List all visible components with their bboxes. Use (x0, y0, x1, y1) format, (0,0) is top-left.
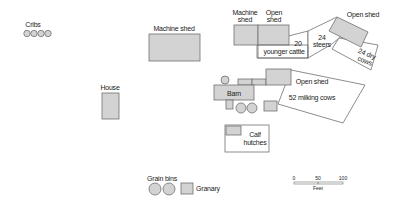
barn-small-structure (226, 100, 233, 109)
cribs-label: Cribs (25, 21, 41, 28)
open-shed-top-label-2: shed (267, 16, 282, 23)
scale-tick-100: 100 (339, 175, 348, 181)
barn-label: Barn (227, 90, 241, 97)
barn-silo-1 (236, 103, 246, 113)
crib-4 (45, 30, 51, 36)
machine-shed-main-label: Machine shed (153, 25, 194, 32)
machine-shed-small-label-1: Machine (232, 9, 257, 16)
open-shed-top-building (258, 25, 289, 45)
calf-hutches-label-1: Calf (249, 131, 261, 138)
house: House (100, 84, 120, 119)
grain-bin-1 (149, 183, 161, 195)
granary-label: Granary (196, 185, 221, 193)
farmstead-diagram: Cribs Machine shed House Machine shed Op… (0, 0, 402, 206)
open-shed-angled-label: Open shed (347, 11, 380, 19)
younger-cattle-label-1: 20 (294, 40, 302, 47)
calf-hutches: Calf hutches (225, 125, 269, 152)
barn-annex-2 (252, 79, 266, 85)
scale-unit: Feet (313, 185, 324, 191)
crib-3 (38, 30, 44, 36)
barn-side-structure (264, 101, 277, 111)
barn-cluster: Barn (214, 69, 291, 113)
open-shed-barn-building (266, 69, 291, 85)
barn-silo-2 (247, 103, 257, 113)
calf-hutches-label-2: hutches (243, 139, 267, 146)
scale-bar-rect (294, 182, 343, 184)
grain-bins: Grain bins (147, 175, 178, 195)
machine-shed-main: Machine shed (149, 25, 200, 61)
machine-shed-small: Machine shed (232, 9, 258, 45)
machine-shed-small-building (234, 25, 258, 45)
scale-bar: 0 50 100 Feet (293, 175, 348, 191)
open-shed-top: Open shed (258, 9, 289, 45)
open-shed-barn-label: Open shed (296, 78, 329, 86)
scale-tick-0: 0 (293, 175, 296, 181)
younger-cattle-label-2: younger cattle (263, 48, 304, 56)
barn-annex-1 (238, 79, 252, 85)
calf-hutches-building (226, 126, 241, 135)
silo-top (221, 76, 229, 84)
steers-label-2: steers (313, 41, 332, 48)
granary: Granary (181, 183, 221, 194)
milking-cows-label: 52 milking cows (289, 94, 336, 102)
house-building (102, 93, 119, 119)
grain-bin-2 (163, 183, 175, 195)
steers-label-1: 24 (318, 34, 326, 41)
machine-shed-small-label-2: shed (238, 16, 253, 23)
cribs: Cribs (24, 21, 51, 37)
grain-bins-label: Grain bins (147, 175, 178, 182)
crib-2 (31, 30, 37, 36)
house-label: House (100, 84, 120, 91)
scale-tick-50: 50 (315, 175, 321, 181)
crib-1 (24, 30, 30, 36)
granary-building (181, 183, 193, 194)
machine-shed-main-building (149, 34, 200, 61)
